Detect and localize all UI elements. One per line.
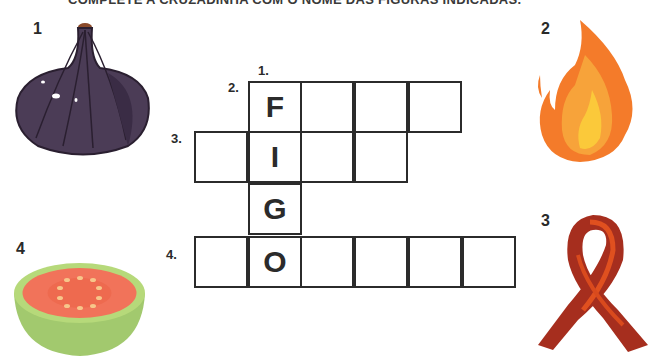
crossword-cell[interactable] [354,236,408,288]
instruction-text: COMPLETE A CRUZADINHA COM O NOME DAS FIG… [68,0,521,7]
clue-label-4: 4. [166,247,177,262]
crossword-cell[interactable] [354,131,408,183]
fig-icon [8,18,158,158]
crossword-cell[interactable] [194,131,248,183]
crossword-cell[interactable] [300,236,354,288]
crossword-cell[interactable] [408,81,462,133]
crossword-cell[interactable] [408,236,462,288]
ribbon-icon [528,210,658,355]
clue-label-1: 1. [258,63,269,78]
crossword-cell[interactable]: F [248,81,302,133]
crossword-cell[interactable]: I [248,131,302,183]
crossword-cell[interactable] [194,236,248,288]
crossword-cell[interactable] [300,81,354,133]
clue-label-2: 2. [228,80,239,95]
crossword-cell[interactable] [462,236,516,288]
clue-label-3: 3. [171,131,182,146]
fire-icon [530,20,650,165]
crossword-cell[interactable] [354,81,408,133]
guava-icon [12,258,147,358]
crossword-cell[interactable]: G [248,183,302,235]
figure-number-4: 4 [16,240,25,258]
crossword-cell[interactable]: O [248,236,302,288]
crossword-cell[interactable] [300,131,354,183]
